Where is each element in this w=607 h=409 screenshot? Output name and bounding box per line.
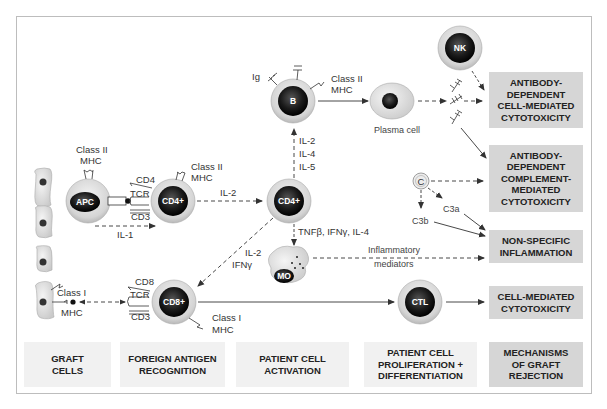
apc-mhc-label: MHC <box>80 155 102 166</box>
macrophage-label: MO <box>277 271 291 281</box>
cd4-cell-label-2: CD4+ <box>278 196 300 206</box>
cd4-cell-1: CD4+ <box>151 172 195 223</box>
macrophage: MO <box>268 246 308 283</box>
il2-label-b: IL-2 <box>299 135 315 146</box>
stage-patient-cell-activation: PATIENT CELL ACTIVATION <box>236 342 349 387</box>
il1-label: IL-1 <box>117 229 133 240</box>
cd4-class2-label: Class II <box>191 161 223 172</box>
complement: C <box>413 173 429 189</box>
cd3-label-2: CD3 <box>131 311 150 322</box>
graft-class1-label: Class I <box>57 287 86 298</box>
nk-cell: NK <box>438 26 482 70</box>
cd8-cell-label: CD8+ <box>163 297 185 307</box>
b-mhc-label: MHC <box>331 84 353 95</box>
graft-cell <box>36 246 52 272</box>
b-class2-label: Class II <box>331 73 363 84</box>
il2-label-c: IL-2 <box>245 247 261 258</box>
outcome-adcmc: ANTIBODY- DEPENDENT COMPLEMENT- MEDIATED… <box>489 145 583 212</box>
inflam-label-1: Inflammatory <box>368 245 421 255</box>
apc-cell: APC <box>66 170 110 223</box>
c3b-label: C3b <box>412 216 429 226</box>
stage-foreign-antigen-recognition: FOREIGN ANTIGEN RECOGNITION <box>120 342 225 387</box>
outcome-inflammation: NON-SPECIFIC INFLAMMATION <box>489 230 583 263</box>
il4-label: IL-4 <box>299 148 315 159</box>
graft-cell <box>35 168 52 207</box>
outcome-cmc: CELL-MEDIATED CYTOTOXICITY <box>489 286 583 319</box>
stage-graft-cells: GRAFT CELLS <box>24 342 111 387</box>
cd3-label-1: CD3 <box>131 211 150 222</box>
cd8-label: CD8 <box>135 276 154 287</box>
ctl-cell: CTL <box>398 280 442 324</box>
complement-label: C <box>418 176 425 187</box>
ig-label: Ig <box>252 71 260 82</box>
cd4-cell-label-1: CD4+ <box>162 196 184 206</box>
cd4-to-cd8-arrow <box>198 218 273 286</box>
inflam-label-2: mediators <box>374 259 414 269</box>
graft-cell <box>35 206 52 238</box>
plasma-cell <box>370 83 414 119</box>
stage-proliferation-differentiation: PATIENT CELL PROLIFERATION + DIFFERENTIA… <box>364 342 477 387</box>
cd4-mhc-label: MHC <box>191 172 213 183</box>
nk-cell-label: NK <box>454 43 467 53</box>
cd8-class1-label: Class I <box>212 312 241 323</box>
apc-class2-label: Class II <box>76 144 108 155</box>
nk-to-adcc-arrow <box>472 71 484 90</box>
cd4-cell-2: CD4+ <box>267 179 311 223</box>
il5-label: IL-5 <box>299 161 315 172</box>
tnf-label: TNFβ, IFNγ, IL-4 <box>298 226 369 237</box>
cd8-cell: CD8+ <box>152 280 203 329</box>
tcr-label-1: TCR <box>130 188 150 199</box>
c3a-label: C3a <box>443 204 460 214</box>
cd4-label: CD4 <box>136 174 155 185</box>
apc-label: APC <box>76 197 94 207</box>
b-cell-label: B <box>290 96 296 106</box>
ifng-label: IFNγ <box>232 259 252 270</box>
graft-mhc-label: MHC <box>61 307 83 318</box>
c3a-to-inflammation-arrow <box>464 214 485 230</box>
b-cell: B <box>268 66 324 123</box>
tcr-label-2: TCR <box>130 289 150 300</box>
stage-mechanisms: MECHANISMS OF GRAFT REJECTION <box>489 342 583 387</box>
cd8-mhc-label: MHC <box>212 324 234 335</box>
plasma-cell-label: Plasma cell <box>374 125 420 135</box>
complement-to-c3a-arrow <box>428 188 442 198</box>
outcome-adcc: ANTIBODY- DEPENDENT CELL-MEDIATED CYTOTO… <box>489 72 583 128</box>
antibody-icons <box>450 79 462 124</box>
ctl-cell-label: CTL <box>412 297 429 307</box>
antibody-to-adcmc-arrow <box>461 128 486 158</box>
il2-label-a: IL-2 <box>220 187 236 198</box>
